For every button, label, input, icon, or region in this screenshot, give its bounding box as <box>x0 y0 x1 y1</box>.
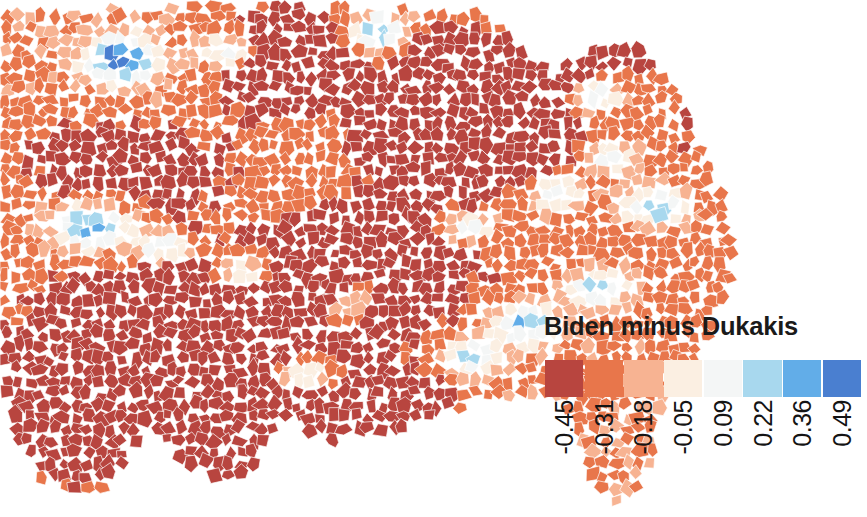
legend-swatch-5 <box>743 360 781 397</box>
county-area <box>203 299 212 308</box>
legend-tick-cell-1: -0.31 <box>585 400 623 505</box>
county-area <box>59 376 70 386</box>
legend-tick-label-4: 0.09 <box>709 400 737 505</box>
county-area <box>548 129 562 139</box>
county-area <box>424 410 435 420</box>
county-area <box>46 50 58 59</box>
county-area <box>186 104 198 118</box>
legend-swatch-7 <box>823 360 861 397</box>
county-area <box>11 317 24 326</box>
legend: Biden minus Dukakis -0.45-0.31-0.18-0.05… <box>540 310 867 510</box>
legend-tick-row: -0.45-0.31-0.18-0.050.090.220.360.49 <box>545 400 861 505</box>
county-area <box>680 162 689 172</box>
county-area <box>0 385 14 398</box>
county-area <box>225 57 236 67</box>
legend-tick-label-0: -0.45 <box>550 400 578 505</box>
legend-swatch-2 <box>624 360 662 397</box>
county-area <box>465 303 477 315</box>
county-area <box>117 356 128 366</box>
county-area <box>363 47 375 58</box>
legend-tick-cell-5: 0.22 <box>743 400 781 505</box>
county-area <box>584 152 594 163</box>
legend-tick-label-7: 0.49 <box>828 400 856 505</box>
county-area <box>307 47 317 56</box>
legend-tick-label-3: -0.05 <box>669 400 697 505</box>
county-area <box>597 130 607 141</box>
county-area <box>103 197 116 212</box>
county-area <box>44 210 55 220</box>
county-area <box>448 234 457 245</box>
legend-swatch-4 <box>704 360 742 397</box>
county-area <box>105 177 117 189</box>
county-area <box>375 210 388 222</box>
choropleth-figure: Biden minus Dukakis -0.45-0.31-0.18-0.05… <box>0 0 867 517</box>
legend-tick-cell-0: -0.45 <box>545 400 583 505</box>
county-area <box>69 243 81 256</box>
county-area <box>490 364 504 376</box>
county-area <box>350 141 363 152</box>
county-area <box>410 246 419 257</box>
legend-swatch-0 <box>545 360 583 397</box>
county-area <box>561 163 574 175</box>
legend-tick-cell-3: -0.05 <box>664 400 702 505</box>
legend-title: Biden minus Dukakis <box>544 314 866 340</box>
legend-swatch-row <box>545 360 861 397</box>
legend-tick-cell-7: 0.49 <box>823 400 861 505</box>
county-area <box>341 187 352 200</box>
legend-tick-cell-2: -0.18 <box>624 400 662 505</box>
county-area <box>82 294 95 308</box>
county-area <box>304 86 313 95</box>
county-area <box>102 291 117 305</box>
county-area <box>178 243 187 258</box>
county-area <box>162 433 171 442</box>
county-area <box>188 296 202 308</box>
county-area <box>326 166 337 179</box>
county-area <box>431 293 444 302</box>
county-area <box>338 409 350 423</box>
legend-tick-cell-4: 0.09 <box>704 400 742 505</box>
county-area <box>631 267 642 279</box>
county-area <box>293 308 308 318</box>
legend-tick-label-5: 0.22 <box>749 400 777 505</box>
county-area <box>11 271 21 284</box>
county-area <box>92 198 102 210</box>
county-area <box>67 481 82 493</box>
legend-swatch-6 <box>783 360 821 397</box>
county-area <box>163 78 173 90</box>
county-area <box>471 93 479 107</box>
county-area <box>670 214 681 224</box>
county-area <box>76 24 94 36</box>
county-area <box>339 282 349 294</box>
county-area <box>362 22 373 37</box>
legend-tick-label-2: -0.18 <box>629 400 657 505</box>
county-area <box>102 269 114 280</box>
county-area <box>233 269 248 284</box>
legend-tick-label-1: -0.31 <box>590 400 618 505</box>
county-area <box>68 93 79 102</box>
legend-tick-cell-6: 0.36 <box>783 400 821 505</box>
legend-swatch-3 <box>664 360 702 397</box>
county-area <box>369 10 384 25</box>
county-area <box>448 270 459 280</box>
county-area <box>336 47 350 58</box>
county-area <box>81 178 91 190</box>
county-area <box>469 32 481 45</box>
legend-swatch-1 <box>585 360 623 397</box>
county-area <box>92 375 105 388</box>
county-area <box>130 435 143 448</box>
county-area <box>199 176 213 188</box>
legend-tick-label-6: 0.36 <box>788 400 816 505</box>
county-area <box>312 25 325 35</box>
